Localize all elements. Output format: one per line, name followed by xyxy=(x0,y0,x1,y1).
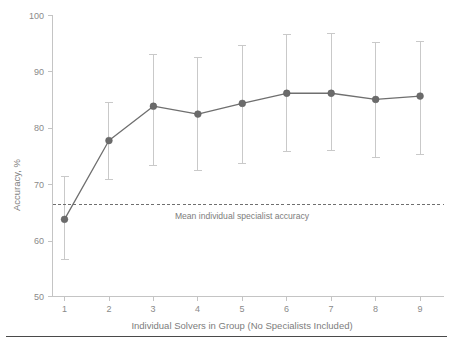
y-tick-label-100: 100 xyxy=(29,11,44,21)
footer-rule xyxy=(6,336,447,337)
y-tick-label-90: 90 xyxy=(34,67,44,77)
x-tick-label-1: 1 xyxy=(62,304,67,314)
x-tick-label-8: 8 xyxy=(373,304,378,314)
data-point-marker xyxy=(106,137,113,144)
y-tick-label-50: 50 xyxy=(34,292,44,302)
y-axis-ticks xyxy=(48,16,53,297)
x-tick-label-3: 3 xyxy=(150,304,155,314)
data-point-marker xyxy=(194,111,201,118)
error-bars-group xyxy=(61,34,425,260)
y-axis-title: Accuracy, % xyxy=(11,158,22,211)
x-tick-label-5: 5 xyxy=(239,304,244,314)
data-point-marker xyxy=(372,96,379,103)
data-point-marker xyxy=(239,100,246,107)
x-axis-ticks xyxy=(65,297,421,302)
x-tick-label-9: 9 xyxy=(417,304,422,314)
x-tick-label-2: 2 xyxy=(106,304,111,314)
y-tick-label-80: 80 xyxy=(34,123,44,133)
chart-figure: 100 90 80 70 60 50 Accuracy, % 1 2 3 4 5… xyxy=(0,0,453,347)
data-point-marker xyxy=(150,103,157,110)
reference-line-label: Mean individual specialist accuracy xyxy=(175,211,310,221)
x-tick-label-4: 4 xyxy=(195,304,200,314)
x-axis-title: Individual Solvers in Group (No Speciali… xyxy=(131,320,352,331)
data-point-marker xyxy=(283,90,290,97)
y-tick-label-60: 60 xyxy=(34,236,44,246)
data-point-marker xyxy=(61,216,68,223)
x-tick-label-7: 7 xyxy=(328,304,333,314)
data-point-marker xyxy=(417,93,424,100)
data-point-marker xyxy=(328,90,335,97)
y-tick-label-70: 70 xyxy=(34,180,44,190)
accuracy-line-chart: 100 90 80 70 60 50 Accuracy, % 1 2 3 4 5… xyxy=(0,0,453,347)
x-tick-label-6: 6 xyxy=(284,304,289,314)
